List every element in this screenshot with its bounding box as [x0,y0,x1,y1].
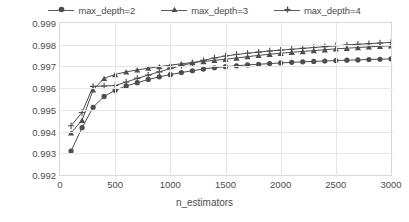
legend-label-max-depth-4: max_depth=4 [304,5,361,16]
y-tick-label: 0.999 [4,18,56,29]
legend-marker-plus-icon [274,5,300,15]
gridline-vertical [115,23,116,177]
series-max-depth-4 [68,39,391,129]
data-point [355,57,360,62]
x-tick-label: 3000 [380,179,401,190]
data-point [79,125,84,130]
data-point [266,48,272,54]
y-axis-ticks: 0.9920.9930.9940.9950.9960.9970.9980.999 [0,0,56,222]
data-point [145,72,151,78]
data-point [179,70,184,75]
gridline-vertical [281,23,282,177]
y-tick-label: 0.998 [4,39,56,50]
legend-item-max-depth-3: max_depth=3 [161,5,248,16]
gridline-vertical [336,23,337,177]
gridline-horizontal [60,153,393,154]
gridline-horizontal [60,132,393,133]
legend-label-max-depth-3: max_depth=3 [191,5,248,16]
data-point [79,118,85,123]
data-point [134,75,140,81]
gridline-horizontal [60,88,393,89]
data-point [233,51,239,57]
series-max-depth-2 [68,56,391,153]
x-tick-label: 2500 [325,179,346,190]
data-point [366,57,371,62]
gridline-horizontal [60,66,393,67]
data-point [377,57,382,62]
x-tick-label: 2000 [270,179,291,190]
data-point [300,59,305,64]
data-point [388,56,391,61]
data-point [322,58,327,63]
x-tick-label: 500 [107,179,123,190]
x-tick-label: 0 [57,179,62,190]
x-axis-label: n_estimators [0,197,409,208]
gridline-vertical [170,23,171,177]
data-point [156,69,162,75]
data-point [190,68,195,73]
y-tick-label: 0.992 [4,170,56,181]
chart-legend: max_depth=2 max_depth=3 max [0,0,409,20]
data-point [244,50,250,56]
data-point [289,60,294,65]
legend-marker-triangle-icon [161,5,187,15]
data-point [102,94,107,99]
data-point [101,76,107,81]
gridline-horizontal [60,45,393,46]
y-tick-label: 0.996 [4,83,56,94]
chart-container: max_depth=2 max_depth=3 max [0,0,409,222]
data-point [255,49,261,55]
data-point [366,40,372,46]
legend-item-max-depth-2: max_depth=2 [48,5,135,16]
data-point [289,46,295,52]
x-tick-label: 1500 [215,179,236,190]
gridline-vertical [226,23,227,177]
data-point [344,58,349,63]
gridline-horizontal [60,110,393,111]
legend-label-max-depth-2: max_depth=2 [78,5,135,16]
y-tick-label: 0.997 [4,61,56,72]
y-tick-label: 0.993 [4,148,56,159]
data-point [267,61,272,66]
data-point [300,45,306,51]
data-point [200,57,206,63]
legend-item-max-depth-4: max_depth=4 [274,5,361,16]
plot-area [59,22,392,176]
y-tick-label: 0.994 [4,126,56,137]
data-point [311,59,316,64]
x-tick-label: 1000 [160,179,181,190]
y-tick-label: 0.995 [4,104,56,115]
data-point [123,79,129,85]
